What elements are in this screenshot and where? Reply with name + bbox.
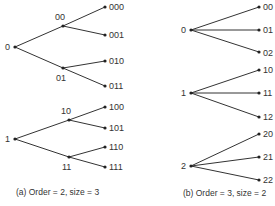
figure-b-edges [191,7,259,180]
svg-text:20: 20 [263,129,273,139]
svg-text:001: 001 [109,30,124,40]
svg-text:111: 111 [109,162,123,172]
figure-a-nodes [13,5,106,168]
tree-diagrams: 0 00 01 000 001 010 011 1 10 11 100 101 … [0,0,275,206]
svg-text:101: 101 [109,123,124,133]
svg-text:110: 110 [109,142,123,152]
svg-text:2: 2 [181,161,186,171]
svg-text:00: 00 [55,12,65,22]
svg-text:0: 0 [5,42,10,52]
svg-text:01: 01 [56,73,66,83]
svg-text:000: 000 [109,2,124,12]
svg-text:10: 10 [61,106,71,116]
svg-text:11: 11 [62,162,71,172]
svg-text:02: 02 [263,48,273,58]
svg-text:011: 011 [109,81,123,91]
svg-text:21: 21 [263,152,273,162]
svg-text:10: 10 [263,65,273,75]
svg-text:010: 010 [109,56,124,66]
svg-text:22: 22 [263,175,273,185]
svg-text:1: 1 [5,134,10,144]
svg-text:100: 100 [109,102,124,112]
svg-text:12: 12 [263,112,273,122]
svg-text:00: 00 [263,2,273,12]
svg-text:0: 0 [181,25,186,35]
svg-text:01: 01 [263,25,273,35]
figure-a-edges [15,7,105,167]
caption-b: (b) Order = 3, size = 2 [183,188,266,198]
svg-text:1: 1 [181,88,186,98]
svg-text:11: 11 [263,88,272,98]
caption-a: (a) Order = 2, size = 3 [16,187,99,197]
